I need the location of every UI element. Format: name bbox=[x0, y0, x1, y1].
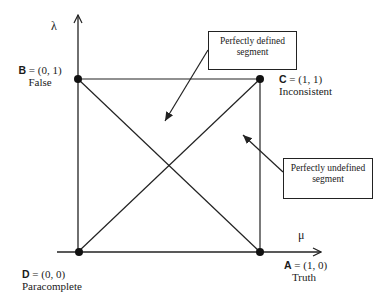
lattice-diagram bbox=[0, 0, 389, 303]
callout-arrow-undefined bbox=[243, 135, 283, 172]
vertex-b-label: B = (0, 1) False bbox=[18, 64, 62, 88]
vertex-a-name: Truth bbox=[284, 271, 324, 283]
callout-defined-line1: Perfectly defined bbox=[209, 36, 296, 47]
callout-arrow-defined bbox=[165, 50, 208, 121]
vertex-d-label: D = (0, 0) Paracomplete bbox=[22, 268, 82, 292]
vertex-d-coords: = (0, 0) bbox=[30, 268, 66, 280]
callout-defined-line2: segment bbox=[209, 47, 296, 58]
vertex-d-letter: D bbox=[22, 268, 30, 280]
y-axis-label: λ bbox=[51, 19, 57, 34]
callout-box-defined: Perfectly defined segment bbox=[208, 31, 297, 70]
vertex-a bbox=[256, 248, 264, 256]
vertex-c bbox=[256, 75, 264, 83]
vertex-b-letter: B bbox=[18, 64, 26, 76]
vertex-c-coords: = (1, 1) bbox=[287, 73, 323, 85]
vertex-d bbox=[75, 248, 83, 256]
vertex-b-name: False bbox=[18, 76, 62, 88]
vertex-a-label: A = (1, 0) Truth bbox=[284, 259, 324, 283]
vertex-a-letter: A bbox=[284, 259, 292, 271]
vertex-c-name: Inconsistent bbox=[279, 85, 332, 97]
vertex-c-label: C = (1, 1) Inconsistent bbox=[279, 73, 332, 97]
callout-undefined-line2: segment bbox=[284, 174, 372, 185]
callout-undefined-line1: Perfectly undefined bbox=[284, 163, 372, 174]
vertex-b bbox=[74, 75, 82, 83]
vertex-c-letter: C bbox=[279, 73, 287, 85]
vertex-a-coords: = (1, 0) bbox=[292, 259, 328, 271]
x-axis-label: μ bbox=[298, 228, 304, 243]
vertex-d-name: Paracomplete bbox=[22, 280, 82, 292]
callout-box-undefined: Perfectly undefined segment bbox=[283, 158, 373, 199]
vertex-b-coords: = (0, 1) bbox=[26, 64, 62, 76]
